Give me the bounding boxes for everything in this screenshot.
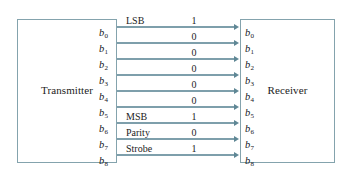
signal-name-label: MSB xyxy=(126,111,147,122)
transmitter-port-label: b3 xyxy=(99,76,108,87)
receiver-port-label: b8 xyxy=(245,156,254,167)
signal-line xyxy=(117,90,236,92)
receiver-label: Receiver xyxy=(241,84,334,96)
arrow-head-icon xyxy=(234,152,239,158)
arrow-head-icon xyxy=(234,72,239,78)
transmitter-port-label: b1 xyxy=(99,44,108,55)
receiver-port-label: b2 xyxy=(245,60,254,71)
receiver-port-label: b7 xyxy=(245,140,254,151)
diagram-canvas: Transmitter Receiver b0b0LSB1b1b10b2b20b… xyxy=(0,0,352,174)
signal-name-label: LSB xyxy=(126,15,144,26)
signal-line xyxy=(117,154,236,156)
bit-value-label: 0 xyxy=(183,63,205,74)
transmitter-port-label: b7 xyxy=(99,140,108,151)
bit-value-label: 1 xyxy=(183,15,205,26)
receiver-port-label: b1 xyxy=(245,44,254,55)
receiver-port-label: b5 xyxy=(245,108,254,119)
signal-line xyxy=(117,106,236,108)
signal-name-label: Parity xyxy=(126,127,150,138)
bit-value-label: 0 xyxy=(183,127,205,138)
signal-name-label: Strobe xyxy=(126,143,152,154)
signal-line xyxy=(117,74,236,76)
receiver-box: Receiver xyxy=(240,19,335,163)
receiver-port-label: b4 xyxy=(245,92,254,103)
receiver-port-label: b6 xyxy=(245,124,254,135)
arrow-head-icon xyxy=(234,104,239,110)
receiver-port-label: b0 xyxy=(245,28,254,39)
bit-value-label: 0 xyxy=(183,31,205,42)
bit-value-label: 1 xyxy=(183,143,205,154)
transmitter-port-label: b2 xyxy=(99,60,108,71)
signal-line xyxy=(117,26,236,28)
signal-line xyxy=(117,58,236,60)
signal-line xyxy=(117,42,236,44)
transmitter-port-label: b0 xyxy=(99,28,108,39)
arrow-head-icon xyxy=(234,24,239,30)
bit-value-label: 0 xyxy=(183,95,205,106)
receiver-port-label: b3 xyxy=(245,76,254,87)
bit-value-label: 0 xyxy=(183,79,205,90)
arrow-head-icon xyxy=(234,120,239,126)
arrow-head-icon xyxy=(234,88,239,94)
arrow-head-icon xyxy=(234,136,239,142)
bit-value-label: 1 xyxy=(183,111,205,122)
signal-line xyxy=(117,122,236,124)
transmitter-port-label: b4 xyxy=(99,92,108,103)
transmitter-port-label: b5 xyxy=(99,108,108,119)
transmitter-port-label: b8 xyxy=(99,156,108,167)
transmitter-port-label: b6 xyxy=(99,124,108,135)
arrow-head-icon xyxy=(234,56,239,62)
arrow-head-icon xyxy=(234,40,239,46)
bit-value-label: 0 xyxy=(183,47,205,58)
signal-line xyxy=(117,138,236,140)
